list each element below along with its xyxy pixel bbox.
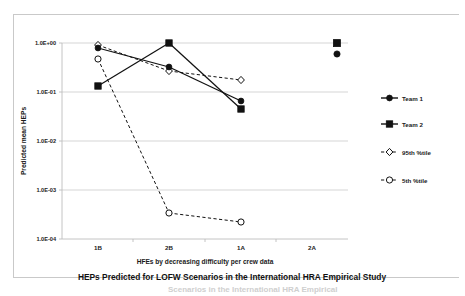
y-axis-tick-labels: 1.0E+00 1.0E-01 1.0E-02 1.0E-03 1.0E-04 <box>35 40 57 242</box>
y-tick-label: 1.0E+00 <box>35 40 56 46</box>
data-point-marker <box>238 98 244 104</box>
legend-item-95th-percentile[interactable]: 95th %tile <box>381 148 431 155</box>
data-point-marker <box>95 45 101 51</box>
filled-circle-icon <box>387 95 393 101</box>
data-point-marker <box>238 219 244 225</box>
legend-label: Team 1 <box>402 95 423 102</box>
series-line-segment <box>169 213 241 222</box>
y-tick-label: 1.0E-03 <box>36 187 56 193</box>
data-point-marker <box>238 106 244 112</box>
x-tick-label-2a: 2A <box>308 244 316 251</box>
legend-item-team-1[interactable]: Team 1 <box>381 95 423 102</box>
x-tick-label-1a: 1A <box>237 244 245 251</box>
y-tick-label: 1.0E-04 <box>36 236 56 242</box>
legend-label: Team 2 <box>402 121 423 128</box>
chart-legend: Team 1 Team 2 95th %tile <box>381 95 431 184</box>
y-tick-label: 1.0E-02 <box>36 138 56 144</box>
legend-item-team-2[interactable]: Team 2 <box>381 121 423 128</box>
open-diamond-icon <box>386 148 393 155</box>
x-tick-label-2b: 2B <box>165 244 173 251</box>
data-point-marker <box>334 51 340 57</box>
series-95th-percentile <box>95 41 245 83</box>
data-point-marker <box>238 76 245 83</box>
series-team-2 <box>95 40 341 113</box>
data-point-marker <box>166 210 172 216</box>
data-point-marker <box>166 40 172 46</box>
series-line-segment <box>169 43 241 109</box>
figure-caption: HEPs Predicted for LOFW Scenarios in the… <box>78 272 387 282</box>
page-bottom-bleed: Scenarios in the International HRA Empir… <box>0 286 465 296</box>
grid-lines <box>62 43 348 190</box>
data-point-marker <box>166 64 172 70</box>
x-axis-tick-labels: 1B 2B 1A 2A <box>94 244 316 251</box>
y-tick-label: 1.0E-01 <box>36 89 56 95</box>
x-axis-title: HFEs by decreasing difficulty per crew d… <box>137 258 274 266</box>
data-point-marker <box>95 83 101 89</box>
legend-label: 95th %tile <box>402 149 431 156</box>
legend-item-5th-percentile[interactable]: 5th %tile <box>381 177 428 184</box>
data-point-marker <box>333 40 340 47</box>
legend-label: 5th %tile <box>402 177 428 184</box>
chart-figure: 1.0E+00 1.0E-01 1.0E-02 1.0E-03 1.0E-04 … <box>0 0 465 296</box>
series-5th-percentile <box>95 56 244 225</box>
data-point-marker <box>95 56 101 62</box>
bleed-text: Scenarios in the International HRA Empir… <box>168 286 338 294</box>
series-line-segment <box>169 67 241 101</box>
x-tick-label-1b: 1B <box>94 244 102 251</box>
filled-square-icon <box>386 121 392 127</box>
page-canvas: 1.0E+00 1.0E-01 1.0E-02 1.0E-03 1.0E-04 … <box>0 0 465 296</box>
y-axis-title: Predicted mean HEPs <box>20 107 27 175</box>
series-team-1 <box>95 45 340 104</box>
axes <box>59 43 348 242</box>
open-circle-icon <box>386 177 392 183</box>
